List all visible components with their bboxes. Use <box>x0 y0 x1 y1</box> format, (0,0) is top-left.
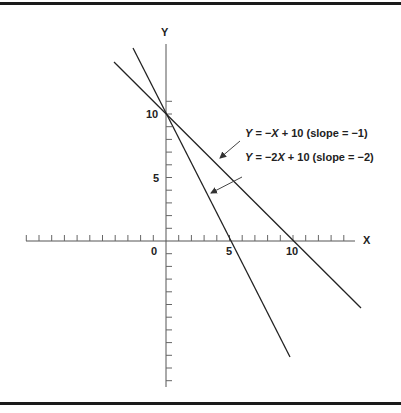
line-slope-minus-2 <box>133 48 290 357</box>
eq2-x: X <box>277 151 284 163</box>
y-tick-10-label: 10 <box>146 108 158 120</box>
eq2-rest: + 10 (slope = −2) <box>285 151 374 163</box>
equation-2-label: Y = −2X + 10 (slope = −2) <box>245 151 374 163</box>
chart-canvas <box>0 0 401 413</box>
arrow-eq1 <box>220 141 240 158</box>
y-tick-5-label: 5 <box>153 172 159 184</box>
x-tick-10-label: 10 <box>286 245 298 257</box>
equation-1-label: Y = −X + 10 (slope = −1) <box>245 127 368 139</box>
eq2-eq: = −2 <box>252 151 277 163</box>
x-ticks <box>26 235 344 241</box>
eq1-x: X <box>271 127 278 139</box>
eq1-eq: = − <box>252 127 271 139</box>
line-slope-minus-1 <box>114 62 361 308</box>
x-axis-label: X <box>363 234 370 246</box>
origin-label: 0 <box>151 245 157 257</box>
x-tick-5-label: 5 <box>226 245 232 257</box>
eq1-rest: + 10 (slope = −1) <box>279 127 368 139</box>
y-axis-label: Y <box>161 26 168 38</box>
